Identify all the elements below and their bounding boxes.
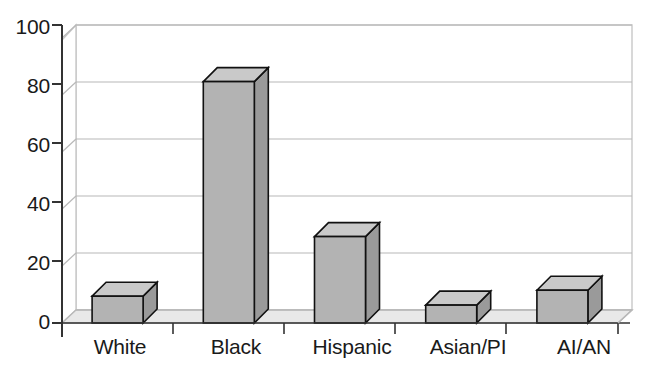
x-tick-hispanic: Hispanic <box>294 336 410 370</box>
bar-white <box>92 282 157 323</box>
bar-asian-pi-front <box>426 305 477 323</box>
bar-black <box>203 68 268 323</box>
x-tick-asian-pi: Asian/PI <box>410 336 526 370</box>
plot-area <box>0 0 649 377</box>
y-axis <box>52 25 62 337</box>
bar-black-front <box>203 82 254 323</box>
bar-white-front <box>92 296 143 323</box>
bar-asian-pi <box>426 291 491 323</box>
x-tick-ai-an: AI/AN <box>526 336 642 370</box>
bar-hispanic <box>315 223 380 323</box>
bar-chart: 100 80 60 40 20 0 <box>0 0 649 377</box>
bar-ai-an <box>537 276 602 323</box>
bar-black-side <box>254 68 268 323</box>
bar-hispanic-front <box>315 237 366 323</box>
bar-hispanic-side <box>366 223 380 323</box>
x-tick-white: White <box>62 336 178 370</box>
x-axis-tick-labels: White Black Hispanic Asian/PI AI/AN <box>62 336 642 370</box>
left-wall <box>62 25 76 323</box>
x-tick-black: Black <box>178 336 294 370</box>
bar-ai-an-front <box>537 290 588 323</box>
